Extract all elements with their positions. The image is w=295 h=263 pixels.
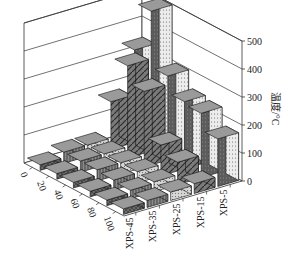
z-tick-label: 500 <box>247 36 262 47</box>
z-tick-label: 200 <box>247 120 262 131</box>
z-tick-label: 100 <box>247 148 262 159</box>
row-tick-label: 40 <box>52 188 66 201</box>
chart-canvas: 0100200300400500温度/°C020406080100XPS-45X… <box>0 0 295 263</box>
col-tick-label: XPS-15 <box>195 197 206 229</box>
col-tick-label: XPS-5 <box>218 190 229 217</box>
z-tick-label: 0 <box>247 176 252 187</box>
row-tick-label: 60 <box>68 197 82 210</box>
col-tick-label: XPS-25 <box>171 204 182 236</box>
bar3d-chart: 0100200300400500温度/°C020406080100XPS-45X… <box>0 0 295 263</box>
z-tick-label: 300 <box>247 92 262 103</box>
z-tick-label: 400 <box>247 64 262 75</box>
row-tick-label: 20 <box>35 179 49 192</box>
row-tick-label: 100 <box>102 215 117 233</box>
col-tick-label: XPS-35 <box>147 211 158 243</box>
z-axis-label: 温度/°C <box>270 92 282 126</box>
row-tick-label: 0 <box>18 170 30 178</box>
row-tick-label: 80 <box>85 206 99 219</box>
col-tick-label: XPS-45 <box>124 218 135 250</box>
